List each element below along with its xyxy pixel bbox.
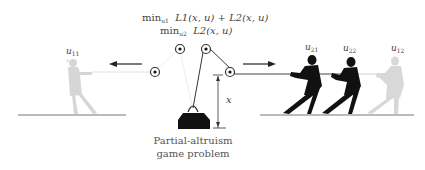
label-u12-sub: 12 [397, 47, 405, 54]
weight-icon [178, 106, 210, 129]
rope-left-down-light [180, 52, 192, 105]
formula2-min: min [160, 25, 179, 36]
rope-left-up-light [157, 50, 178, 70]
formula1-expr: L1(x, u) + L2(x, u) [175, 12, 268, 23]
formula2-sub: u2 [179, 30, 187, 37]
caption: Partial-altruism game problem [148, 134, 238, 160]
figure-u21-icon [283, 55, 322, 114]
caption-line2: game problem [148, 147, 238, 160]
dimension-x-icon [213, 75, 226, 128]
label-u12: u12 [391, 43, 404, 54]
figure-u22-icon [322, 57, 361, 114]
pulley-right-low-icon [226, 68, 235, 77]
arrow-right-icon [243, 61, 276, 67]
label-u11: u11 [66, 46, 79, 57]
rope-pulley-to-pulley [208, 47, 232, 70]
pulley-left-high-icon [176, 45, 185, 54]
pulley-right-high-icon [202, 45, 211, 54]
label-u11-sub: 11 [72, 50, 80, 57]
label-u22: u22 [343, 43, 356, 54]
formula2-expr: L2(x, u) [193, 25, 232, 36]
dimension-x-label: x [226, 94, 232, 105]
formula1-sub: u1 [161, 17, 169, 24]
formula1-min: min [142, 12, 161, 23]
formula-line2: minu2 L2(x, u) [160, 25, 232, 37]
pulley-left-low-icon [151, 68, 160, 77]
caption-line1: Partial-altruism [148, 134, 238, 147]
figure-u12-icon [367, 57, 404, 115]
label-u21: u21 [305, 42, 318, 53]
label-u21-sub: 21 [311, 46, 319, 53]
formula-line1: minu1 L1(x, u) + L2(x, u) [142, 12, 268, 24]
figure-u11-icon [67, 59, 97, 114]
rope-weight-to-pulley [193, 47, 204, 108]
label-u22-sub: 22 [349, 47, 357, 54]
arrow-left-icon [109, 61, 142, 67]
